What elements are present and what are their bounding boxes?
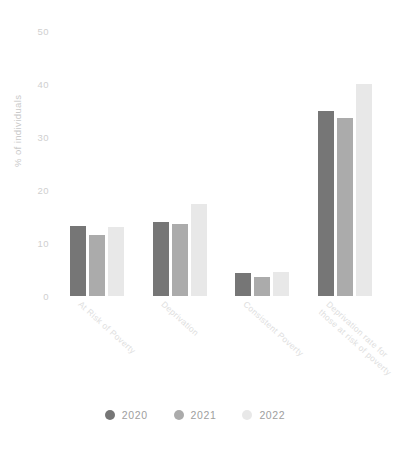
x-axis-label-1-line-0: Deprivation xyxy=(159,299,201,338)
bar-2020[interactable] xyxy=(235,273,251,296)
bar-group xyxy=(70,31,124,296)
bar-2022[interactable] xyxy=(191,204,207,296)
bar-group xyxy=(318,31,372,296)
x-axis-label-3-line-1: those at risk of poverty xyxy=(316,307,393,378)
legend-label: 2020 xyxy=(122,409,148,421)
bar-2021[interactable] xyxy=(254,277,270,296)
y-axis-tick-10: 10 xyxy=(37,238,49,249)
bar-2020[interactable] xyxy=(70,226,86,296)
bar-2021[interactable] xyxy=(172,224,188,296)
x-axis-label-3: Deprivation rate forthose at risk of pov… xyxy=(316,299,396,378)
legend-label: 2022 xyxy=(259,409,285,421)
legend-swatch-circle-icon xyxy=(242,410,252,420)
x-axis-category-labels: At Risk of PovertyDeprivationConsistent … xyxy=(60,299,378,409)
bar-group xyxy=(153,31,207,296)
bar-2022[interactable] xyxy=(108,227,124,296)
legend-swatch-circle-icon xyxy=(105,410,115,420)
bar-2022[interactable] xyxy=(273,272,289,296)
bar-2021[interactable] xyxy=(89,235,105,296)
y-axis-title: % of individuals xyxy=(12,47,23,167)
y-axis-tick-20: 20 xyxy=(37,185,49,196)
legend-label: 2021 xyxy=(191,409,217,421)
legend-swatch-circle-icon xyxy=(174,410,184,420)
x-axis-label-0-line-0: At Risk of Poverty xyxy=(76,299,138,356)
bar-2020[interactable] xyxy=(153,222,169,296)
y-axis-tick-50: 50 xyxy=(37,26,49,37)
x-axis-label-1: Deprivation xyxy=(159,299,201,339)
chart-legend: 202020212022 xyxy=(0,409,390,421)
bar-group xyxy=(235,31,289,296)
bar-2020[interactable] xyxy=(318,111,334,296)
x-axis-label-0: At Risk of Poverty xyxy=(76,299,138,357)
bar-2021[interactable] xyxy=(337,118,353,296)
legend-item-2021[interactable]: 2021 xyxy=(174,409,217,421)
y-axis-tick-30: 30 xyxy=(37,132,49,143)
x-axis-label-2-line-0: Consistent Poverty xyxy=(241,299,305,358)
x-axis-label-2: Consistent Poverty xyxy=(241,299,306,359)
legend-item-2022[interactable]: 2022 xyxy=(242,409,285,421)
bar-2022[interactable] xyxy=(356,84,372,296)
legend-item-2020[interactable]: 2020 xyxy=(105,409,148,421)
y-axis-tick-0: 0 xyxy=(43,291,49,302)
bar-groups xyxy=(60,31,378,296)
plot-area: 01020304050 xyxy=(60,31,378,296)
y-axis-tick-40: 40 xyxy=(37,79,49,90)
